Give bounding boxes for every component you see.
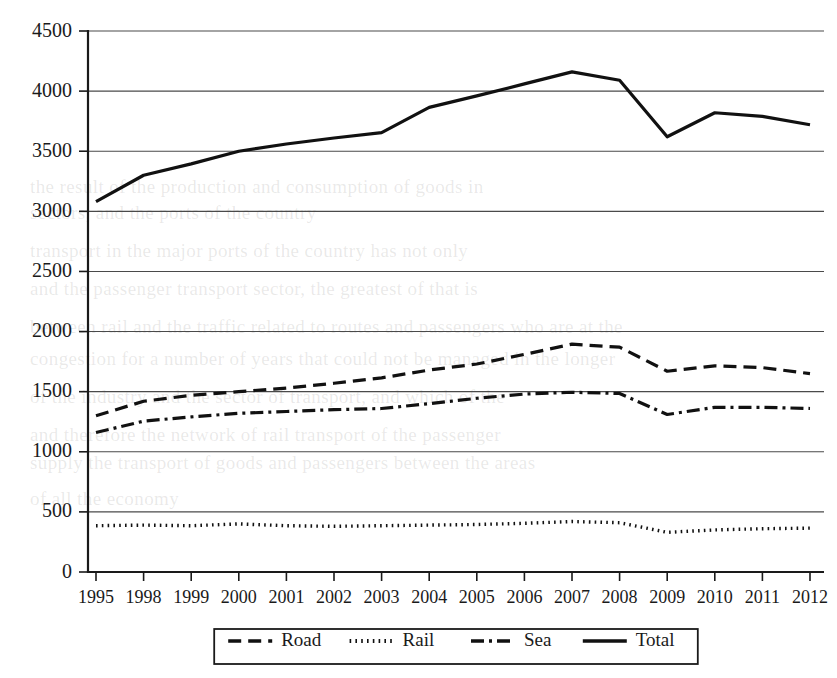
series-line-rail [96,522,810,533]
x-tick-label-2007: 2007 [554,587,590,607]
x-tick-label-2008: 2008 [602,587,638,607]
series-line-road [96,344,810,416]
y-tick-label-3000: 3000 [32,199,72,221]
line-chart-plot: 0500100015002000250030003500400045001995… [0,0,837,678]
y-tick-label-500: 500 [42,499,72,521]
x-tick-label-2010: 2010 [697,587,733,607]
legend-label-sea[interactable]: Sea [524,629,552,650]
series-line-sea [96,392,810,432]
y-tick-label-2000: 2000 [32,319,72,341]
y-tick-label-4000: 4000 [32,79,72,101]
y-tick-label-4500: 4500 [32,19,72,41]
x-tick-label-2011: 2011 [745,587,780,607]
x-tick-label-2002: 2002 [316,587,352,607]
x-tick-label-2005: 2005 [459,587,495,607]
x-tick-label-2001: 2001 [268,587,304,607]
legend-label-road[interactable]: Road [281,629,322,650]
legend-label-rail[interactable]: Rail [403,629,435,650]
y-tick-label-0: 0 [62,560,72,582]
x-tick-label-2006: 2006 [506,587,542,607]
y-tick-label-2500: 2500 [32,259,72,281]
x-tick-label-2000: 2000 [221,587,257,607]
x-tick-label-1995: 1995 [78,587,114,607]
chart-container: the result of the production and consump… [0,0,837,678]
x-tick-label-2012: 2012 [792,587,828,607]
x-tick-label-2003: 2003 [364,587,400,607]
legend-label-total[interactable]: Total [636,629,675,650]
x-tick-label-2009: 2009 [649,587,685,607]
x-tick-label-1999: 1999 [173,587,209,607]
x-tick-label-2004: 2004 [411,587,447,607]
y-tick-label-1000: 1000 [32,439,72,461]
y-tick-label-3500: 3500 [32,139,72,161]
y-tick-label-1500: 1500 [32,379,72,401]
x-tick-label-1998: 1998 [126,587,162,607]
